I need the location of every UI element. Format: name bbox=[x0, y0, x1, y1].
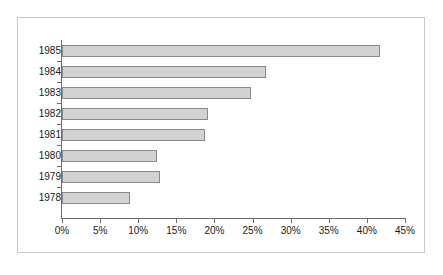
y-axis-tick-label: 1981 bbox=[21, 129, 61, 141]
x-axis-tick-mark bbox=[138, 219, 139, 223]
bar-row bbox=[62, 146, 405, 167]
bar-row bbox=[62, 125, 405, 146]
y-axis-tick-mark bbox=[57, 187, 61, 188]
y-axis-tick-label: 1984 bbox=[21, 66, 61, 78]
y-axis-tick-mark bbox=[57, 145, 61, 146]
bar bbox=[62, 87, 251, 99]
bar bbox=[62, 66, 266, 78]
y-axis-tick-mark bbox=[57, 166, 61, 167]
bar bbox=[62, 150, 157, 162]
x-axis-line bbox=[61, 218, 406, 219]
y-axis-tick-mark bbox=[57, 61, 61, 62]
bar bbox=[62, 129, 205, 141]
bar-row bbox=[62, 104, 405, 125]
y-axis-tick-mark bbox=[57, 124, 61, 125]
x-axis-tick-label: 0% bbox=[42, 225, 82, 237]
x-axis-tick-label: 10% bbox=[118, 225, 158, 237]
y-axis-tick-mark bbox=[57, 82, 61, 83]
bar bbox=[62, 45, 380, 57]
x-axis-tick-label: 30% bbox=[271, 225, 311, 237]
x-axis-tick-mark bbox=[329, 219, 330, 223]
x-axis-tick-mark bbox=[253, 219, 254, 223]
x-axis-tick-mark bbox=[367, 219, 368, 223]
y-axis-tick-label: 1979 bbox=[21, 171, 61, 183]
x-axis-tick-label: 15% bbox=[156, 225, 196, 237]
x-axis-tick-mark bbox=[62, 219, 63, 223]
bar-row bbox=[62, 62, 405, 83]
bar bbox=[62, 171, 160, 183]
y-axis-tick-mark bbox=[57, 103, 61, 104]
x-axis-tick-mark bbox=[291, 219, 292, 223]
y-axis-tick-label: 1978 bbox=[21, 192, 61, 204]
x-axis-tick-label: 35% bbox=[309, 225, 349, 237]
x-axis-tick-mark bbox=[176, 219, 177, 223]
chart-figure: 19851984198319821981198019791978 0%5%10%… bbox=[0, 0, 443, 275]
bar-row bbox=[62, 167, 405, 188]
y-axis-tick-label: 1983 bbox=[21, 87, 61, 99]
x-axis-tick-label: 40% bbox=[347, 225, 387, 237]
y-axis-tick-label: 1982 bbox=[21, 108, 61, 120]
x-axis-tick-label: 25% bbox=[233, 225, 273, 237]
x-axis-tick-mark bbox=[214, 219, 215, 223]
x-axis-tick-label: 5% bbox=[80, 225, 120, 237]
x-axis-tick-label: 20% bbox=[194, 225, 234, 237]
bar bbox=[62, 192, 130, 204]
x-axis-tick-mark bbox=[405, 219, 406, 223]
y-axis-tick-label: 1980 bbox=[21, 150, 61, 162]
x-axis-tick-label: 45% bbox=[385, 225, 425, 237]
bar-row bbox=[62, 83, 405, 104]
x-axis-tick-mark bbox=[100, 219, 101, 223]
bar-row bbox=[62, 41, 405, 62]
bar bbox=[62, 108, 208, 120]
bar-row bbox=[62, 188, 405, 209]
y-axis-tick-label: 1985 bbox=[21, 45, 61, 57]
